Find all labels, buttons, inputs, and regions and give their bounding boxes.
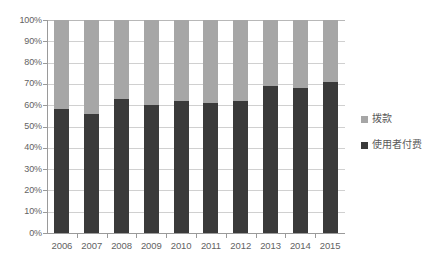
legend-item-user-fees[interactable]: 使用者付费 <box>361 139 441 151</box>
y-axis-tick <box>43 190 47 191</box>
x-axis-tick-label: 2011 <box>196 240 226 252</box>
y-axis-tick-label: 50% <box>4 122 42 131</box>
x-axis-tick-label: 2015 <box>315 240 345 252</box>
x-axis-tick-label: 2010 <box>166 240 196 252</box>
bar-segment-user-fees[interactable] <box>114 99 129 233</box>
x-axis-tick <box>136 234 137 238</box>
x-axis-tick <box>77 234 78 238</box>
bars-layer <box>47 20 345 233</box>
y-axis-tick <box>43 41 47 42</box>
bar-segment-user-fees[interactable] <box>54 109 69 233</box>
x-axis-tick <box>315 234 316 238</box>
y-axis-tick-label: 90% <box>4 37 42 46</box>
x-axis-tick <box>226 234 227 238</box>
bar-column[interactable] <box>233 20 248 233</box>
y-axis-tick-label: 60% <box>4 101 42 110</box>
bar-column[interactable] <box>114 20 129 233</box>
x-axis-labels: 2006200720082009201020112012201320142015 <box>47 240 345 256</box>
y-axis-tick-label: 100% <box>4 16 42 25</box>
legend-label-user-fees: 使用者付费 <box>372 139 422 151</box>
x-axis-tick <box>166 234 167 238</box>
bar-segment-user-fees[interactable] <box>144 105 159 233</box>
y-axis-tick <box>43 212 47 213</box>
bar-column[interactable] <box>54 20 69 233</box>
y-axis-tick-label: 80% <box>4 58 42 67</box>
bar-segment-grants[interactable] <box>293 20 308 88</box>
bar-segment-grants[interactable] <box>144 20 159 105</box>
bar-segment-grants[interactable] <box>323 20 338 82</box>
x-axis-tick <box>196 234 197 238</box>
x-axis-tick-label: 2007 <box>77 240 107 252</box>
bar-segment-user-fees[interactable] <box>84 114 99 233</box>
bar-column[interactable] <box>203 20 218 233</box>
x-axis-tick-label: 2006 <box>47 240 77 252</box>
bar-segment-grants[interactable] <box>84 20 99 114</box>
x-axis-tick <box>256 234 257 238</box>
x-axis-tick-label: 2009 <box>136 240 166 252</box>
y-axis-tick-label: 40% <box>4 143 42 152</box>
x-axis-tick-label: 2008 <box>107 240 137 252</box>
bar-segment-grants[interactable] <box>263 20 278 86</box>
bar-segment-grants[interactable] <box>233 20 248 101</box>
y-axis-tick <box>43 20 47 21</box>
legend-swatch-grants-icon <box>361 116 368 123</box>
y-axis-tick <box>43 127 47 128</box>
x-axis-tick <box>107 234 108 238</box>
bar-column[interactable] <box>263 20 278 233</box>
y-axis-tick <box>43 233 47 234</box>
bar-segment-user-fees[interactable] <box>293 88 308 233</box>
bar-segment-grants[interactable] <box>203 20 218 103</box>
y-axis-tick <box>43 63 47 64</box>
y-axis-labels: 0%10%20%30%40%50%60%70%80%90%100% <box>0 0 42 271</box>
y-axis-tick-label: 70% <box>4 79 42 88</box>
bar-segment-user-fees[interactable] <box>174 101 189 233</box>
x-axis-tick-label: 2012 <box>226 240 256 252</box>
bar-column[interactable] <box>174 20 189 233</box>
y-axis-tick <box>43 169 47 170</box>
bar-segment-user-fees[interactable] <box>323 82 338 233</box>
y-axis-tick-label: 10% <box>4 207 42 216</box>
x-axis-tick-label: 2014 <box>285 240 315 252</box>
bar-segment-grants[interactable] <box>174 20 189 101</box>
legend-item-grants[interactable]: 拨款 <box>361 113 441 125</box>
chart-container: 0%10%20%30%40%50%60%70%80%90%100% 200620… <box>0 0 444 271</box>
legend-label-grants: 拨款 <box>372 113 392 125</box>
y-axis-tick-label: 20% <box>4 186 42 195</box>
x-axis-tick-label: 2013 <box>256 240 286 252</box>
x-axis-tick <box>285 234 286 238</box>
bar-segment-grants[interactable] <box>114 20 129 99</box>
y-axis-tick <box>43 105 47 106</box>
bar-segment-user-fees[interactable] <box>233 101 248 233</box>
bar-column[interactable] <box>84 20 99 233</box>
bar-column[interactable] <box>323 20 338 233</box>
y-axis-tick-label: 30% <box>4 165 42 174</box>
bar-segment-user-fees[interactable] <box>203 103 218 233</box>
bar-column[interactable] <box>144 20 159 233</box>
y-axis-tick-label: 0% <box>4 229 42 238</box>
y-axis-tick <box>43 84 47 85</box>
legend-swatch-user-fees-icon <box>361 142 368 149</box>
y-axis-tick <box>43 148 47 149</box>
chart-legend: 拨款 使用者付费 <box>361 113 441 165</box>
bar-segment-grants[interactable] <box>54 20 69 109</box>
bar-column[interactable] <box>293 20 308 233</box>
bar-segment-user-fees[interactable] <box>263 86 278 233</box>
